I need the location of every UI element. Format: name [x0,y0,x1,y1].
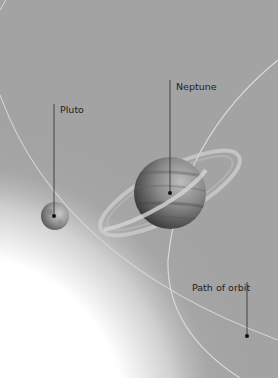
pluto-label: Pluto [60,104,84,115]
orbit-diagram: Pluto Neptune Path of orbit [0,0,278,378]
path-of-orbit-label: Path of orbit [192,282,250,293]
orbit-marker-dot [245,334,249,338]
pluto-marker-dot [52,214,56,218]
neptune-label: Neptune [176,81,217,92]
neptune-marker-dot [168,191,172,195]
